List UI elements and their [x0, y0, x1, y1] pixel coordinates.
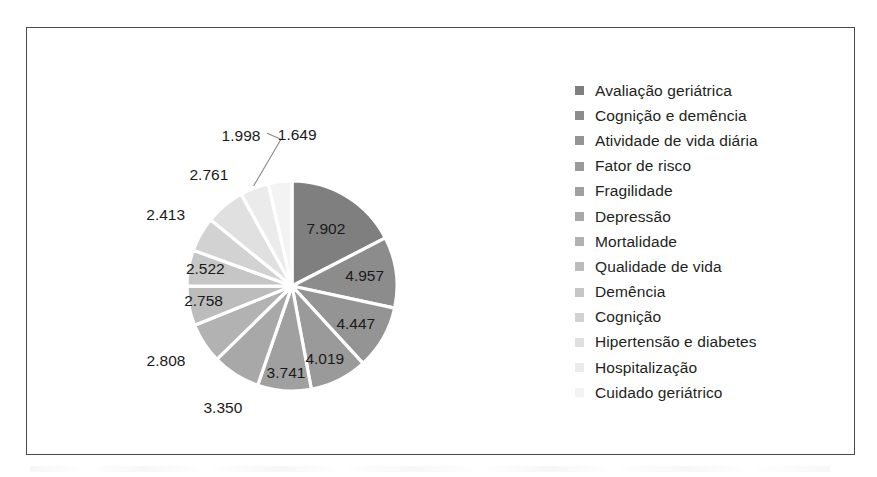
legend-swatch-icon	[575, 187, 584, 196]
pie-slice-value-label: 2.522	[186, 260, 225, 277]
legend-item-label: Hospitalização	[595, 359, 697, 377]
legend-item[interactable]: Avaliação geriátrica	[575, 78, 865, 103]
legend-swatch-icon	[575, 237, 584, 246]
legend-swatch-icon	[575, 338, 584, 347]
legend-item[interactable]: Mortalidade	[575, 229, 865, 254]
legend-item-label: Atividade de vida diária	[595, 132, 758, 150]
pie-chart-area: 7.9024.9574.4474.0193.7413.3502.8082.758…	[27, 28, 587, 456]
legend-item-label: Demência	[595, 283, 666, 301]
legend-item[interactable]: Hipertensão e diabetes	[575, 330, 865, 355]
legend-item[interactable]: Cognição e demência	[575, 103, 865, 128]
scan-artifact	[30, 466, 830, 472]
legend-swatch-icon	[575, 86, 584, 95]
legend-swatch-icon	[575, 136, 584, 145]
legend-item[interactable]: Demência	[575, 280, 865, 305]
pie-slice-value-label: 4.957	[345, 267, 384, 284]
legend-item[interactable]: Depressão	[575, 204, 865, 229]
pie-slice-value-label: 2.761	[190, 166, 229, 183]
legend-swatch-icon	[575, 363, 584, 372]
legend-item[interactable]: Atividade de vida diária	[575, 128, 865, 153]
pie-slice-group	[187, 181, 397, 391]
legend-item-label: Mortalidade	[595, 233, 677, 251]
pie-chart-svg: 7.9024.9574.4474.0193.7413.3502.8082.758…	[27, 28, 587, 456]
legend-swatch-icon	[575, 388, 584, 397]
legend-swatch-icon	[575, 162, 584, 171]
pie-slice-value-label: 4.447	[336, 315, 375, 332]
legend-item-label: Cognição	[595, 308, 661, 326]
legend-item[interactable]: Qualidade de vida	[575, 254, 865, 279]
pie-slice-value-label: 2.413	[146, 206, 185, 223]
legend-item[interactable]: Hospitalização	[575, 355, 865, 380]
pie-slice-value-label: 7.902	[307, 220, 346, 237]
legend-item[interactable]: Cuidado geriátrico	[575, 380, 865, 405]
legend-item-label: Cognição e demência	[595, 107, 747, 125]
legend-item[interactable]: Cognição	[575, 305, 865, 330]
pie-slice-value-label: 1.649	[278, 126, 317, 143]
legend-item[interactable]: Fator de risco	[575, 154, 865, 179]
legend-item[interactable]: Fragilidade	[575, 179, 865, 204]
pie-slice-value-label: 2.758	[184, 292, 223, 309]
legend-swatch-icon	[575, 288, 584, 297]
pie-slice-value-label: 4.019	[305, 350, 344, 367]
figure-frame: 7.9024.9574.4474.0193.7413.3502.8082.758…	[26, 27, 855, 455]
legend-item-label: Fragilidade	[595, 182, 673, 200]
legend-swatch-icon	[575, 212, 584, 221]
legend-item-label: Qualidade de vida	[595, 258, 722, 276]
legend-item-label: Fator de risco	[595, 157, 691, 175]
legend-item-label: Depressão	[595, 208, 671, 226]
pie-slice-value-label: 1.998	[222, 127, 261, 144]
chart-legend: Avaliação geriátricaCognição e demênciaA…	[575, 78, 865, 405]
legend-item-label: Hipertensão e diabetes	[595, 333, 757, 351]
legend-swatch-icon	[575, 313, 584, 322]
pie-slice-value-label: 3.350	[204, 399, 243, 416]
legend-item-label: Avaliação geriátrica	[595, 82, 732, 100]
legend-swatch-icon	[575, 262, 584, 271]
pie-slice-value-label: 2.808	[147, 352, 186, 369]
pie-slice-value-label: 3.741	[267, 364, 306, 381]
legend-swatch-icon	[575, 111, 584, 120]
legend-item-label: Cuidado geriátrico	[595, 384, 723, 402]
